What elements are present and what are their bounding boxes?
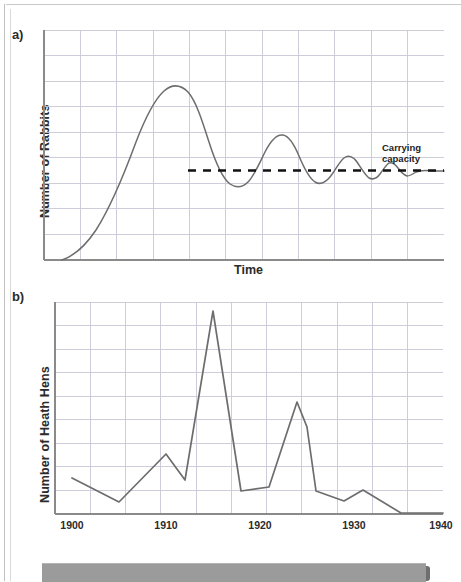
panel-b-plot-area	[55, 302, 443, 514]
panel-a-carrying-capacity-label: Carrying capacity	[382, 142, 421, 164]
x-tick-1900: 1900	[60, 519, 83, 531]
carrying-capacity-line1: Carrying	[382, 142, 421, 153]
panel-b-y-axis-label: Number of Heath Hens	[38, 366, 52, 503]
panel-a-letter: a)	[12, 27, 23, 42]
panel-b-axes	[55, 302, 443, 514]
bottom-gray-banner-edge	[426, 566, 430, 581]
panel-a-x-axis-label: Time	[234, 263, 263, 277]
x-tick-1940: 1940	[429, 519, 452, 531]
panel-a: a) Number of Rabbits	[0, 0, 461, 285]
panel-a-population-curve	[62, 86, 444, 260]
panel-b-gridlines	[55, 302, 443, 514]
panel-b-svg	[55, 302, 443, 514]
bottom-gray-banner	[42, 563, 426, 582]
panel-b: b) Number of Heath Hens	[0, 285, 461, 550]
panel-b-letter: b)	[12, 289, 24, 304]
x-tick-1930: 1930	[342, 519, 365, 531]
x-tick-1910: 1910	[154, 519, 177, 531]
x-tick-1920: 1920	[248, 519, 271, 531]
carrying-capacity-line2: capacity	[382, 153, 421, 164]
panel-b-population-line	[72, 311, 443, 513]
